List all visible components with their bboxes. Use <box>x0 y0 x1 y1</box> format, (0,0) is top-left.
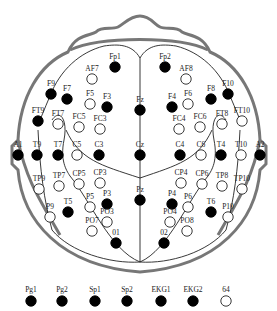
filled-electrode-dot-icon <box>33 116 43 126</box>
hollow-electrode-dot-icon <box>54 181 64 191</box>
filled-electrode-dot-icon <box>46 89 56 99</box>
electrode-label: PO8 <box>180 216 194 225</box>
electrode-fz: Fz <box>135 95 145 115</box>
electrode-label: CP3 <box>94 168 107 177</box>
electrode-fc5: FC5 <box>73 112 86 132</box>
electrode-label: Sp1 <box>89 285 101 294</box>
filled-electrode-dot-icon <box>102 102 112 112</box>
electrode-label: FT7 <box>52 109 65 118</box>
electrode-label: EKG1 <box>151 285 170 294</box>
electrode-label: F10 <box>222 79 234 88</box>
legend-row: Pg1Pg2Sp1Sp2EKG1EKG264 <box>25 285 231 306</box>
filled-electrode-dot-icon <box>111 238 121 248</box>
electrode-label: Pg1 <box>25 285 37 294</box>
hollow-electrode-dot-icon <box>74 179 84 189</box>
electrode-02: 02 <box>159 228 169 248</box>
electrode-tp8: TP8 <box>216 171 229 191</box>
electrode-t5: T5 <box>63 197 73 217</box>
filled-electrode-dot-icon <box>167 102 177 112</box>
electrode-po3: PO3 <box>100 207 114 227</box>
electrode-fc4: FC4 <box>173 114 186 134</box>
filled-electrode-dot-icon <box>159 238 169 248</box>
electrode-group: Fp1Fp2AF7AF8F9F7F5F3FzF4F6F8F10FT9FT7FC5… <box>13 52 265 248</box>
electrode-64: 64 <box>221 285 231 306</box>
electrode-cp3: CP3 <box>94 168 107 188</box>
electrode-label: Fp2 <box>159 52 171 61</box>
hollow-electrode-dot-icon <box>34 184 44 194</box>
electrode-fc6: FC6 <box>194 112 207 132</box>
electrode-label: C4 <box>176 140 185 149</box>
electrode-f10: F10 <box>222 79 234 99</box>
electrode-c4: C4 <box>175 140 185 160</box>
electrode-label: FT9 <box>32 106 45 115</box>
electrode-ekg1: EKG1 <box>151 285 170 306</box>
filled-electrode-dot-icon <box>110 62 120 72</box>
electrode-ekg2: EKG2 <box>183 285 202 306</box>
electrode-t9: T9 <box>32 140 42 160</box>
electrode-sp1: Sp1 <box>89 285 101 306</box>
electrode-ft9: FT9 <box>32 106 45 126</box>
filled-electrode-dot-icon <box>90 296 100 306</box>
electrode-label: A1 <box>13 140 22 149</box>
electrode-label: T7 <box>54 140 63 149</box>
filled-electrode-dot-icon <box>206 94 216 104</box>
electrode-label: 01 <box>112 228 120 237</box>
electrode-label: F7 <box>63 84 71 93</box>
electrode-af8: AF8 <box>179 64 193 84</box>
electrode-label: AF8 <box>179 64 193 73</box>
electrode-pg1: Pg1 <box>25 285 37 306</box>
hollow-electrode-dot-icon <box>237 184 247 194</box>
filled-electrode-dot-icon <box>216 150 226 160</box>
electrode-tp10: TP10 <box>234 174 251 194</box>
electrode-label: T9 <box>33 140 42 149</box>
electrode-po7: PO7 <box>85 216 99 236</box>
filled-electrode-dot-icon <box>135 105 145 115</box>
electrode-label: FT10 <box>234 106 251 115</box>
electrode-tp7: TP7 <box>53 171 66 191</box>
hollow-electrode-dot-icon <box>183 202 193 212</box>
electrode-label: T10 <box>235 140 247 149</box>
electrode-label: T6 <box>207 197 216 206</box>
electrode-label: Pz <box>136 185 144 194</box>
electrode-label: PO3 <box>100 207 114 216</box>
electrode-cz: Cz <box>135 140 145 160</box>
filled-electrode-dot-icon <box>160 62 170 72</box>
electrode-c6: C6 <box>196 140 206 160</box>
electrode-t6: T6 <box>206 197 216 217</box>
electrode-tp9: TP9 <box>33 174 46 194</box>
electrode-f5: F5 <box>85 89 95 109</box>
hollow-electrode-dot-icon <box>85 99 95 109</box>
electrode-label: Sp2 <box>121 285 133 294</box>
electrode-label: FC4 <box>173 114 186 123</box>
filled-electrode-dot-icon <box>223 89 233 99</box>
electrode-label: Fz <box>136 95 144 104</box>
electrode-label: F6 <box>184 89 192 98</box>
electrode-ft10: FT10 <box>234 106 251 126</box>
electrode-label: Cz <box>136 140 145 149</box>
electrode-label: PO4 <box>163 207 177 216</box>
filled-electrode-dot-icon <box>63 207 73 217</box>
hollow-electrode-dot-icon <box>174 124 184 134</box>
electrode-label: C3 <box>95 140 104 149</box>
filled-electrode-dot-icon <box>53 150 63 160</box>
hollow-electrode-dot-icon <box>195 122 205 132</box>
electrode-cp4: CP4 <box>175 168 188 188</box>
filled-electrode-dot-icon <box>122 296 132 306</box>
hollow-electrode-dot-icon <box>95 124 105 134</box>
filled-electrode-dot-icon <box>13 150 23 160</box>
electrode-label: TP9 <box>33 174 46 183</box>
electrode-f4: F4 <box>167 92 177 112</box>
electrode-ft7: FT7 <box>52 109 65 129</box>
electrode-label: FC6 <box>194 112 207 121</box>
electrode-f7: F7 <box>62 84 72 104</box>
filled-electrode-dot-icon <box>175 150 185 160</box>
filled-electrode-dot-icon <box>135 195 145 205</box>
electrode-p6: P6 <box>183 192 193 212</box>
electrode-label: Fp1 <box>109 52 121 61</box>
electrode-label: F8 <box>207 84 215 93</box>
hollow-electrode-dot-icon <box>196 150 206 160</box>
electrode-label: 64 <box>222 285 230 294</box>
electrode-label: P3 <box>103 189 111 198</box>
filled-electrode-dot-icon <box>32 150 42 160</box>
electrode-label: 02 <box>160 228 168 237</box>
